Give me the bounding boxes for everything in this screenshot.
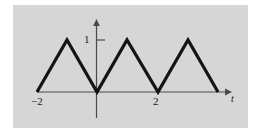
y-axis-arrowhead (93, 19, 100, 26)
y-tick-label-1: 1 (84, 34, 90, 45)
x-axis (37, 89, 232, 96)
y-axis (93, 19, 100, 118)
waveform-trace (37, 40, 218, 92)
triangular-wave-chart (0, 0, 259, 137)
x-tick-label-2: 2 (153, 96, 159, 107)
x-axis-variable-label: t (231, 94, 234, 104)
x-tick-label-neg-2: −2 (31, 96, 43, 107)
figure-root: −2 1 2 t (0, 0, 259, 137)
